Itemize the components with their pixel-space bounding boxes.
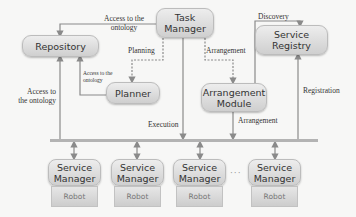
robot-box: Robot bbox=[251, 186, 298, 207]
repository-node: Repository bbox=[22, 35, 99, 57]
communication-bus bbox=[50, 139, 318, 142]
edge-label-line: the ontology bbox=[14, 97, 56, 106]
edge-label-line: ontology bbox=[83, 77, 112, 84]
edge-label-execution: Execution bbox=[148, 121, 178, 130]
ellipsis: ··· bbox=[230, 168, 242, 178]
edge-label-line: Access to the bbox=[83, 70, 112, 77]
robot-box: Robot bbox=[51, 186, 98, 207]
robot-box: Robot bbox=[114, 186, 161, 207]
service-manager-node: Service Manager bbox=[248, 159, 301, 186]
edge-label-planning: Planning bbox=[128, 47, 155, 56]
service-manager-node: Service Manager bbox=[48, 159, 101, 186]
edge-label-arrangement-bottom: Arrangement bbox=[238, 117, 278, 126]
edge-label-line: ontology bbox=[101, 24, 147, 33]
planner-node: Planner bbox=[106, 82, 160, 104]
edge-label-bus-repo: Access to the ontology bbox=[14, 88, 56, 105]
robot-box: Robot bbox=[176, 186, 223, 207]
service-manager-node: Service Manager bbox=[111, 159, 164, 186]
edge-label-registration: Registration bbox=[303, 87, 340, 96]
service-manager-node: Service Manager bbox=[173, 159, 226, 186]
service-registry-node: Service Registry bbox=[255, 25, 328, 55]
edge-label-tm-repo: Access to the ontology bbox=[101, 15, 147, 32]
arrangement-module-node: Arrangement Module bbox=[201, 83, 267, 112]
edge-label-arrangement-top: Arrangement bbox=[206, 47, 246, 56]
task-manager-node: Task Manager bbox=[156, 8, 214, 38]
edge-label-planner-repo: Access to the ontology bbox=[83, 70, 112, 83]
edge-label-discovery: Discovery bbox=[258, 13, 289, 22]
